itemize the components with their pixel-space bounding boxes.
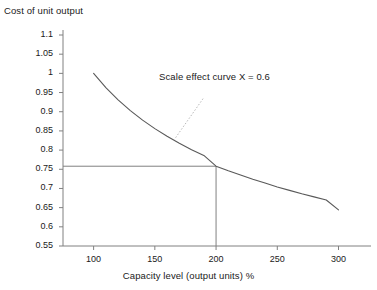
y-axis-tick-label: 0.7 — [13, 182, 53, 192]
chart-figure: Cost of unit output Capacity level (outp… — [0, 0, 377, 290]
annotation-leader-line — [174, 99, 203, 140]
x-axis-tick-label: 150 — [135, 254, 175, 264]
plot-area — [0, 0, 377, 290]
y-axis-tick-label: 1.1 — [13, 29, 53, 39]
y-axis-tick-label: 0.85 — [13, 125, 53, 135]
y-axis-tick-label: 0.8 — [13, 144, 53, 154]
x-axis-tick-label: 300 — [319, 254, 359, 264]
y-axis-tick-label: 0.9 — [13, 106, 53, 116]
scale-effect-curve-annotation: Scale effect curve X = 0.6 — [159, 71, 270, 82]
x-axis-title: Capacity level (output units) % — [0, 270, 377, 281]
x-axis-tick-label: 250 — [257, 254, 297, 264]
y-axis-tick-label: 0.6 — [13, 221, 53, 231]
y-axis-tick-label: 1 — [13, 67, 53, 77]
y-axis-tick-label: 1.05 — [13, 48, 53, 58]
axis-lines — [59, 30, 371, 250]
annotation-leader-line — [174, 99, 203, 140]
y-axis-tick-label: 0.75 — [13, 163, 53, 173]
y-axis-title: Cost of unit output — [4, 5, 83, 16]
y-axis-tick-label: 0.65 — [13, 202, 53, 212]
x-axis-tick-label: 200 — [196, 254, 236, 264]
y-axis-tick-label: 0.95 — [13, 87, 53, 97]
x-axis-tick-label: 100 — [74, 254, 114, 264]
y-axis-tick-label: 0.55 — [13, 240, 53, 250]
reference-lines — [63, 166, 216, 246]
